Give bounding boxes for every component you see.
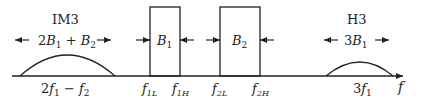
band2-low-label: f2L	[211, 81, 227, 98]
h3-center-label: 3f1	[353, 81, 372, 98]
im3-title: IM3	[52, 12, 79, 27]
band2-high-label: f2H	[251, 81, 270, 98]
band1-label: B1	[156, 33, 172, 50]
h3-arc	[326, 62, 393, 76]
im3-width-label: 2B1 + B2	[38, 33, 96, 50]
h3-width-label: 3B1	[344, 33, 368, 50]
spectrum-svg: f IM3 2B1 + B2 2f1 − f2 B1 f1L f1H B2 f2…	[0, 0, 423, 103]
band1-high-label: f1H	[171, 81, 190, 98]
im3-center-label: 2f1 − f2	[41, 81, 90, 98]
h3-title: H3	[347, 12, 367, 27]
axis-label-f: f	[397, 79, 406, 95]
frequency-spectrum-diagram: f IM3 2B1 + B2 2f1 − f2 B1 f1L f1H B2 f2…	[0, 0, 423, 103]
im3-arc	[20, 55, 115, 76]
band2-label: B2	[231, 33, 247, 50]
band1-low-label: f1L	[141, 81, 157, 98]
